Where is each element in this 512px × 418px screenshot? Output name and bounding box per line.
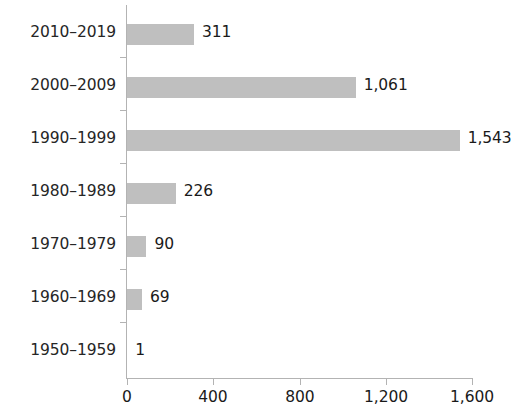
- bar-value-label: 1,061: [364, 76, 408, 94]
- bar-value-label: 1: [135, 341, 145, 359]
- bar: [127, 289, 142, 310]
- bar-value-label: 311: [202, 23, 231, 41]
- bar-row: 1950–1959 1: [0, 327, 508, 379]
- value-axis-tick-label: 1,600: [450, 388, 494, 406]
- value-axis-tick-label: 800: [285, 388, 314, 406]
- bar-row: 2000–2009 1,061: [0, 62, 508, 114]
- category-label: 2000–2009: [30, 76, 116, 94]
- bar-value-label: 226: [184, 182, 213, 200]
- bar-row: 1970–1979 90: [0, 221, 508, 273]
- value-axis-tick: [300, 379, 301, 385]
- bar: [127, 77, 356, 98]
- category-label: 2010–2019: [30, 23, 116, 41]
- value-axis-tick: [213, 379, 214, 385]
- category-label: 1970–1979: [30, 235, 116, 253]
- bar: [127, 24, 194, 45]
- bar: [127, 183, 176, 204]
- bar-row: 2010–2019 311: [0, 9, 508, 61]
- value-axis-tick-label: 0: [122, 388, 132, 406]
- category-label: 1950–1959: [30, 341, 116, 359]
- value-axis-tick-label: 1,200: [364, 388, 408, 406]
- category-label: 1980–1989: [30, 182, 116, 200]
- bar-row: 1980–1989 226: [0, 168, 508, 220]
- value-axis-tick-label: 400: [198, 388, 227, 406]
- bar-row: 1960–1969 69: [0, 274, 508, 326]
- value-axis-tick: [127, 379, 128, 385]
- bar-value-label: 90: [154, 235, 174, 253]
- bar-value-label: 69: [150, 288, 170, 306]
- value-axis-tick: [386, 379, 387, 385]
- value-axis-tick: [472, 379, 473, 385]
- category-label: 1990–1999: [30, 129, 116, 147]
- bar: [127, 130, 460, 151]
- category-label: 1960–1969: [30, 288, 116, 306]
- bar-row: 1990–1999 1,543: [0, 115, 508, 167]
- bar-value-label: 1,543: [468, 129, 512, 147]
- bar: [127, 236, 146, 257]
